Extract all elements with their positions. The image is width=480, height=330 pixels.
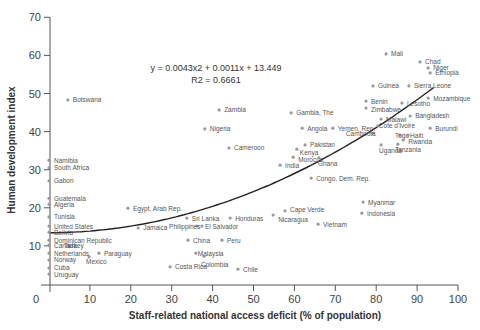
trendline-r2: R2 = 0.6661 — [191, 75, 240, 85]
data-point: Ghana — [317, 156, 338, 167]
point-marker-icon — [47, 197, 50, 200]
y-tick-label: 70 — [29, 11, 41, 23]
point-label: Botswana — [73, 96, 102, 103]
point-marker-icon — [47, 266, 50, 269]
point-marker-icon — [429, 71, 432, 74]
data-point: Burundi — [429, 125, 458, 132]
data-point: Cameroon — [227, 144, 264, 151]
data-point: Lesotho — [400, 100, 430, 107]
point-marker-icon — [220, 239, 223, 242]
point-marker-icon — [186, 239, 189, 242]
point-label: Jamaica — [143, 224, 168, 231]
point-label: Indonesia — [367, 210, 396, 217]
data-point: Gambia, The — [290, 109, 334, 116]
point-marker-icon — [47, 203, 50, 206]
point-label: Cape Verde — [290, 206, 325, 214]
data-point: Angola — [301, 125, 328, 133]
point-marker-icon — [272, 213, 275, 216]
point-label: Bolivia — [54, 229, 74, 236]
point-marker-icon — [310, 176, 313, 179]
data-point: Bangladesh — [409, 112, 450, 120]
point-marker-icon — [418, 60, 421, 63]
data-point: Rwanda — [402, 138, 433, 145]
data-point: Sierra Leone — [407, 82, 451, 89]
point-marker-icon — [317, 223, 320, 226]
point-label: Zambia — [224, 106, 246, 113]
data-point: Zambia — [218, 106, 247, 113]
y-tick-label: 40 — [29, 126, 41, 138]
point-label: Vietnam — [323, 221, 347, 228]
data-point: Vietnam — [317, 221, 347, 228]
point-marker-icon — [380, 117, 383, 120]
point-label: China — [193, 237, 210, 244]
point-label: Norway — [54, 256, 77, 264]
x-tick-label: 20 — [125, 293, 137, 305]
y-tick-label: 20 — [29, 202, 41, 214]
point-label: Guinea — [378, 82, 399, 89]
point-marker-icon — [364, 106, 367, 109]
point-marker-icon — [218, 108, 221, 111]
data-point: Norway — [47, 256, 76, 264]
point-label: Congo, Dem. Rep. — [316, 175, 370, 183]
point-label: Bangladesh — [415, 112, 450, 120]
point-marker-icon — [47, 159, 50, 162]
point-marker-icon — [236, 268, 239, 271]
data-point: Zimbabwe — [364, 106, 401, 113]
y-axis: 10203040506070 — [29, 11, 50, 292]
point-marker-icon — [331, 127, 334, 130]
point-marker-icon — [427, 66, 430, 69]
point-label: Mali — [391, 50, 403, 57]
point-marker-icon — [317, 156, 320, 159]
point-marker-icon — [47, 166, 50, 169]
point-label: Pakistan — [310, 141, 335, 148]
x-axis-title: Staff-related national access deficit (%… — [129, 310, 381, 321]
point-marker-icon — [229, 216, 232, 219]
point-marker-icon — [47, 252, 50, 255]
data-point: Cote d'Ivoire — [376, 122, 415, 129]
data-points: BotswanaZambiaNigeriaCameroonGambia, The… — [47, 50, 470, 278]
point-marker-icon — [47, 258, 50, 261]
point-marker-icon — [66, 98, 69, 101]
point-marker-icon — [47, 215, 50, 218]
point-label: Costa Rica — [175, 263, 207, 270]
point-label: Rwanda — [408, 138, 432, 145]
point-label: Philippines — [169, 223, 201, 231]
point-label: Namibia — [54, 157, 78, 164]
point-label: Sierra Leone — [414, 82, 452, 89]
data-point: Peru — [220, 237, 241, 244]
data-point: Uruguay — [47, 271, 79, 279]
data-point: Mozambique — [427, 95, 471, 103]
x-tick-label: 50 — [247, 293, 259, 305]
x-tick-label: 10 — [84, 293, 96, 305]
point-label: Uruguay — [54, 271, 79, 279]
point-marker-icon — [47, 224, 50, 227]
data-point: Myanmar — [362, 199, 397, 207]
point-marker-icon — [97, 252, 100, 255]
point-label: Nigeria — [210, 125, 231, 133]
point-marker-icon — [303, 143, 306, 146]
data-point: Cape Verde — [283, 206, 324, 214]
point-marker-icon — [126, 207, 129, 210]
data-point: Namibia — [47, 157, 78, 164]
data-point: Nigeria — [203, 125, 231, 133]
x-tick-label: 40 — [206, 293, 218, 305]
data-point: Botswana — [66, 96, 102, 103]
point-label: Sri Lanka — [192, 215, 220, 222]
point-marker-icon — [384, 52, 387, 55]
point-label: South Africa — [54, 164, 89, 171]
point-label: Lesotho — [407, 100, 431, 107]
point-label: Burundi — [435, 125, 457, 132]
point-label: Gambia, The — [296, 109, 334, 116]
point-marker-icon — [362, 200, 365, 203]
point-marker-icon — [407, 84, 410, 87]
x-tick-label: 90 — [411, 293, 423, 305]
point-label: Zimbabwe — [371, 106, 401, 113]
data-point: Chile — [236, 266, 258, 273]
x-tick-label: 30 — [166, 293, 178, 305]
point-label: Chile — [243, 266, 258, 273]
point-marker-icon — [278, 164, 281, 167]
data-point: China — [186, 237, 210, 244]
point-marker-icon — [47, 239, 50, 242]
point-label: Canada — [54, 242, 77, 249]
data-point: Tunisia — [47, 213, 75, 220]
